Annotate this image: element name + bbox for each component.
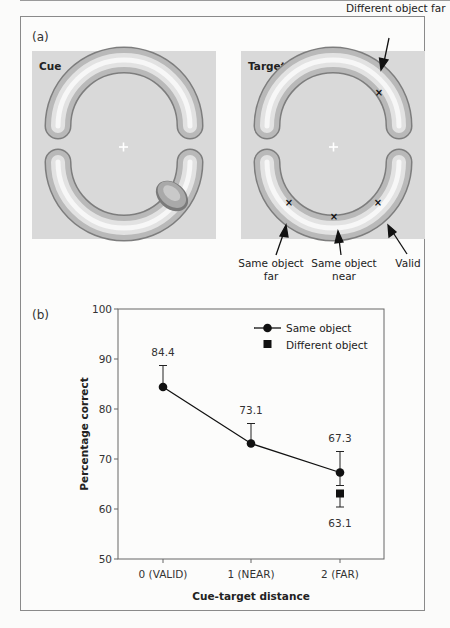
x-tick-label: 2 (FAR) [321,568,359,580]
y-axis: 5060708090100 [92,303,118,565]
data-label: 84.4 [151,346,175,358]
x-tick-label: 1 (NEAR) [227,568,274,580]
x-axis: 0 (VALID)1 (NEAR)2 (FAR) [139,559,359,580]
data-point [336,490,344,498]
series-layer: 84.473.167.363.1 [151,346,351,530]
data-label: 67.3 [328,432,351,444]
y-tick-label: 90 [99,353,112,365]
y-tick-label: 50 [99,553,112,565]
data-point [159,383,168,392]
y-tick-label: 100 [92,303,112,315]
legend-label-same-object: Same object [286,322,351,334]
data-point [247,439,256,448]
y-axis-title: Percentage correct [78,377,90,490]
legend-item-same-object: Same object [254,322,351,334]
legend-label-different-object: Different object [286,339,368,351]
legend-item-different-object: Different object [264,339,368,351]
series-different-object: 63.1 [328,490,351,530]
data-point [336,468,345,477]
square-marker-icon [264,340,272,348]
y-tick-label: 70 [99,453,112,465]
legend: Same object Different object [254,322,368,351]
y-tick-label: 60 [99,503,112,515]
panel-b-chart: 5060708090100 0 (VALID)1 (NEAR)2 (FAR) P… [0,0,450,628]
y-tick-label: 80 [99,403,112,415]
series-same-object: 84.473.167.3 [151,346,351,486]
circle-marker-icon [263,324,272,333]
data-label: 73.1 [239,404,262,416]
data-label: 63.1 [328,517,351,529]
x-axis-title: Cue-target distance [192,590,310,602]
x-tick-label: 0 (VALID) [139,568,188,580]
